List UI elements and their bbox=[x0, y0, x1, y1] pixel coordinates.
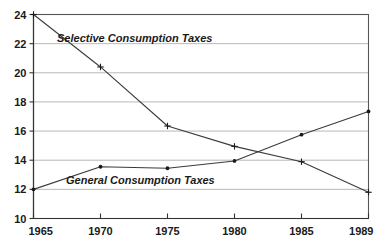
data-point-marker bbox=[367, 110, 371, 114]
y-axis-label: 10 bbox=[14, 213, 26, 225]
x-axis-label: 1970 bbox=[88, 225, 112, 237]
y-axis-label: 14 bbox=[14, 154, 27, 166]
chart-canvas: 1012141618202224 19651970197519801985198… bbox=[0, 0, 387, 246]
y-axis-label: 20 bbox=[14, 67, 26, 79]
y-axis-label: 18 bbox=[14, 96, 26, 108]
data-point-marker bbox=[32, 187, 36, 191]
y-axis-label: 16 bbox=[14, 125, 26, 137]
data-point-marker bbox=[233, 159, 237, 163]
line-chart-figure: 1012141618202224 19651970197519801985198… bbox=[0, 0, 387, 246]
series-annotation-1: Selective Consumption Taxes bbox=[57, 32, 212, 44]
y-axis-label: 12 bbox=[14, 183, 26, 195]
series-annotation-2: General Consumption Taxes bbox=[66, 174, 215, 186]
x-axis-label: 1989 bbox=[349, 225, 373, 237]
x-axis-label: 1965 bbox=[29, 225, 53, 237]
x-axis-label: 1975 bbox=[155, 225, 179, 237]
y-axis-label: 24 bbox=[14, 9, 27, 21]
x-axis-label: 1980 bbox=[222, 225, 246, 237]
y-axis-label: 22 bbox=[14, 38, 26, 50]
data-point-marker bbox=[99, 165, 103, 169]
x-axis-label: 1985 bbox=[289, 225, 313, 237]
data-point-marker bbox=[166, 166, 170, 170]
data-point-marker bbox=[300, 133, 304, 137]
